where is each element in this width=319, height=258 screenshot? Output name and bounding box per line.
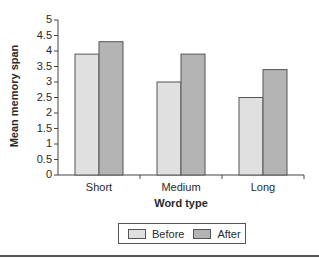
x-tick-label: Short: [58, 181, 140, 193]
y-tick-label: 1: [32, 138, 52, 149]
y-tick-label: 2.5: [32, 92, 52, 103]
bar-after-medium: [181, 54, 205, 175]
y-tick-label: 2: [32, 107, 52, 118]
chart: Mean memory span 00.511.522.533.544.55 S…: [0, 0, 319, 258]
y-tick-label: 3: [32, 76, 52, 87]
bar-before-medium: [157, 82, 181, 175]
bar-before-long: [239, 98, 263, 176]
y-axis-title: Mean memory span: [8, 36, 20, 156]
legend-swatch-before: [128, 229, 146, 239]
x-tick-label: Long: [222, 181, 304, 193]
y-tick-label: 0: [32, 169, 52, 180]
legend-label-after: After: [217, 228, 240, 240]
y-tick-label: 4: [32, 45, 52, 56]
y-tick-label: 0.5: [32, 154, 52, 165]
bar-before-short: [75, 54, 99, 175]
bar-after-long: [263, 70, 287, 175]
x-tick-label: Medium: [140, 181, 222, 193]
y-tick-label: 3.5: [32, 61, 52, 72]
y-tick-label: 1.5: [32, 123, 52, 134]
y-tick-label: 4.5: [32, 30, 52, 41]
legend: Before After: [118, 223, 246, 244]
legend-label-before: Before: [152, 228, 184, 240]
legend-swatch-after: [193, 229, 211, 239]
x-axis-title: Word type: [140, 197, 222, 209]
bottom-rule: [0, 255, 319, 257]
bar-after-short: [99, 42, 123, 175]
y-tick-label: 5: [32, 14, 52, 25]
